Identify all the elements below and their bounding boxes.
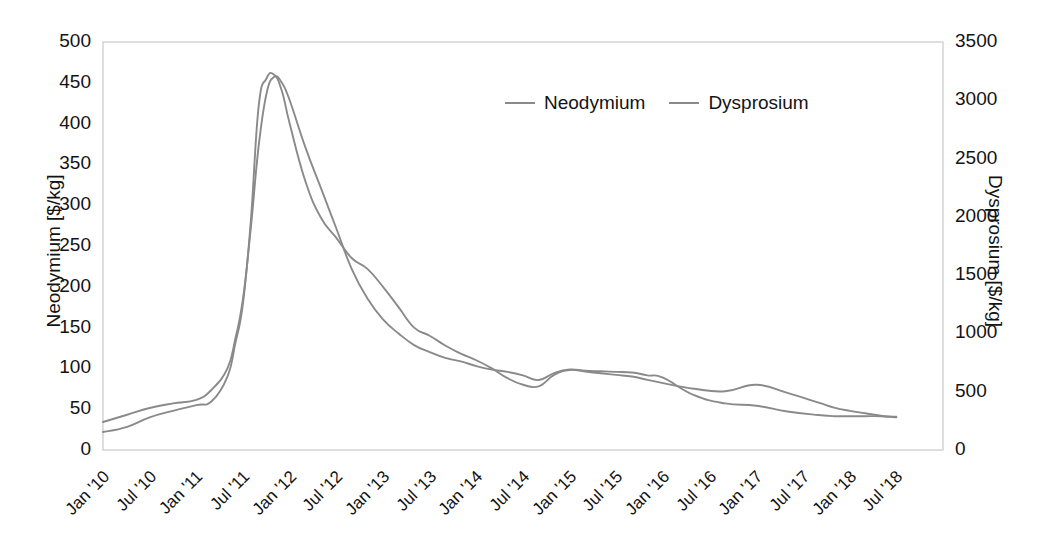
chart-legend: NeodymiumDysprosium (505, 92, 809, 114)
legend-label: Dysprosium (708, 92, 808, 114)
legend-line-icon (669, 102, 699, 104)
series-line-dysprosium (103, 76, 896, 422)
plot-area (0, 0, 1046, 533)
legend-entry-neodymium[interactable]: Neodymium (505, 92, 645, 114)
legend-entry-dysprosium[interactable]: Dysprosium (669, 92, 808, 114)
legend-line-icon (505, 102, 535, 104)
legend-label: Neodymium (544, 92, 645, 114)
chart-container: Neodymium [$/kg] Dysprosium [$/kg] 05010… (0, 0, 1046, 533)
